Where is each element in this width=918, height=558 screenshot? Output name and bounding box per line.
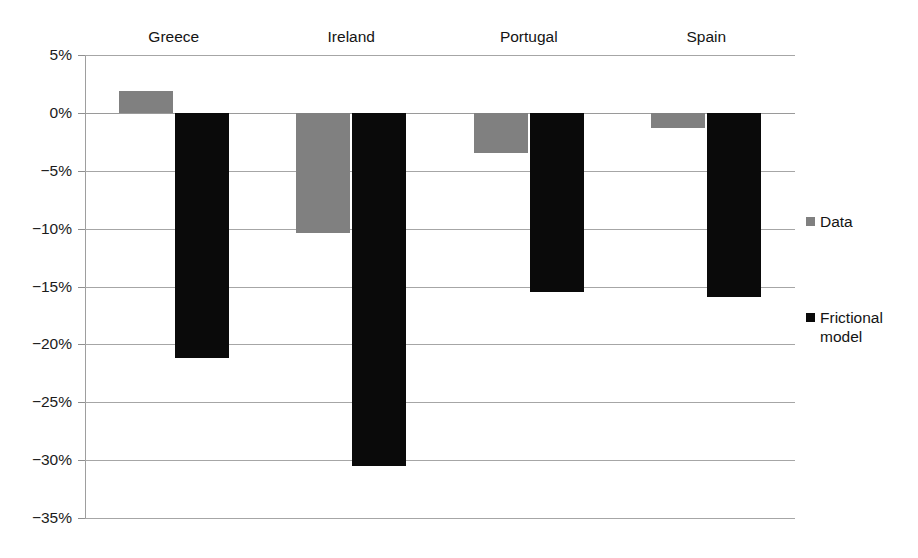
y-axis-tick (78, 113, 85, 114)
y-axis-tick (78, 518, 85, 519)
legend-entry-frictional-model: Frictional model (806, 308, 914, 346)
y-axis-tick (78, 229, 85, 230)
legend-label: Data (820, 212, 853, 231)
bar-greece-frictional-model (175, 113, 229, 358)
bar-portugal-data (474, 113, 528, 154)
category-label-ireland: Ireland (261, 28, 441, 45)
y-axis-tick-label: −30% (10, 452, 72, 468)
y-axis-tick-label: −25% (10, 394, 72, 410)
y-axis-tick (78, 287, 85, 288)
gridline (85, 55, 795, 56)
y-axis-tick-label: −20% (10, 336, 72, 352)
bar-spain-frictional-model (707, 113, 761, 297)
bar-chart: 5%0%−5%−10%−15%−20%−25%−30%−35% GreeceIr… (0, 0, 918, 558)
legend-label: Frictional model (820, 308, 914, 346)
y-axis-tick (78, 402, 85, 403)
plot-area (85, 55, 795, 518)
bar-portugal-frictional-model (530, 113, 584, 292)
gridline (85, 518, 795, 519)
y-axis-tick-label: −10% (10, 221, 72, 237)
legend-swatch-icon (806, 313, 815, 322)
y-axis-tick-label: 0% (10, 105, 72, 121)
legend-entry-data: Data (806, 212, 853, 231)
legend-swatch-icon (806, 217, 815, 226)
y-axis-tick (78, 460, 85, 461)
y-axis-tick-label: −15% (10, 279, 72, 295)
category-label-greece: Greece (84, 28, 264, 45)
y-axis-tick-label: 5% (10, 47, 72, 63)
category-label-portugal: Portugal (439, 28, 619, 45)
bar-spain-data (651, 113, 705, 128)
y-axis-tick-label: −5% (10, 163, 72, 179)
y-axis-tick (78, 171, 85, 172)
category-label-spain: Spain (616, 28, 796, 45)
bar-ireland-frictional-model (352, 113, 406, 466)
y-axis-tick-label: −35% (10, 510, 72, 526)
y-axis-tick (78, 344, 85, 345)
gridline (85, 460, 795, 461)
y-axis-labels: 5%0%−5%−10%−15%−20%−25%−30%−35% (0, 0, 72, 558)
gridline (85, 402, 795, 403)
bar-greece-data (119, 91, 173, 113)
bar-ireland-data (296, 113, 350, 233)
y-axis-tick (78, 55, 85, 56)
